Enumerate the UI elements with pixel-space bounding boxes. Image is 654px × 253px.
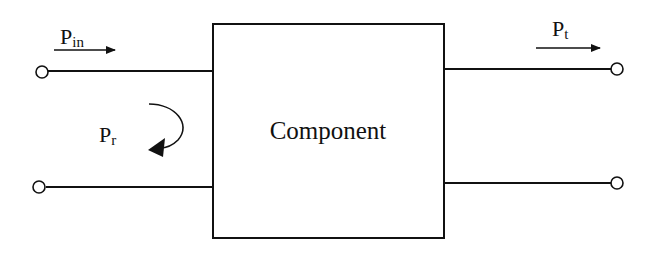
- input-terminal-bottom: [33, 181, 45, 193]
- reflected-arrowhead-icon: [148, 138, 165, 157]
- reflected-power-label: Pr: [99, 122, 116, 148]
- input-terminal-top: [36, 66, 48, 78]
- output-terminal-top: [611, 63, 623, 75]
- two-port-diagram: Component Pin Pr Pt: [0, 0, 654, 253]
- reflected-power-arrow-icon: [149, 104, 183, 148]
- transmitted-power-label: Pt: [552, 16, 569, 42]
- output-terminal-bottom: [611, 177, 623, 189]
- input-power-label: Pin: [60, 24, 84, 50]
- component-label: Component: [270, 117, 387, 144]
